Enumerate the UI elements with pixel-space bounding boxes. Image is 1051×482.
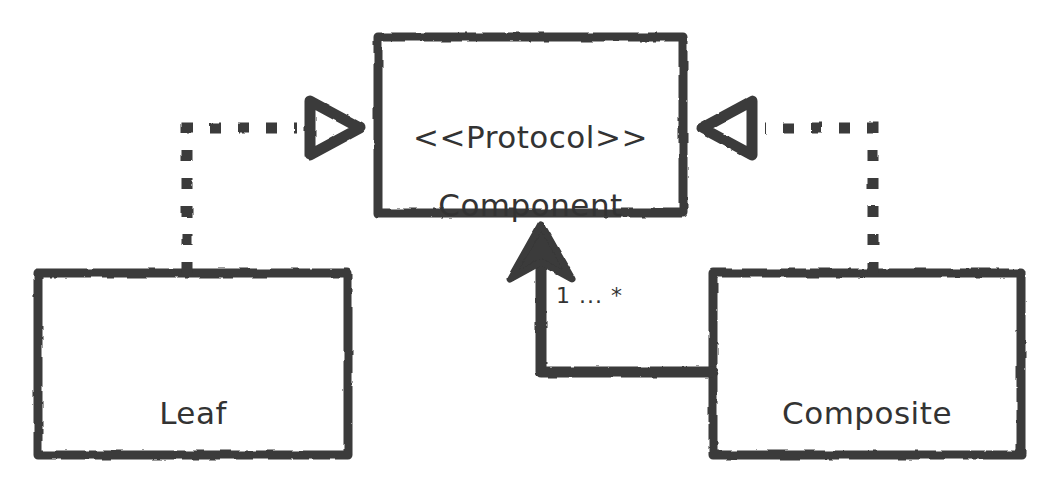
class-box-component[interactable]: [378, 37, 683, 213]
edge-leaf-dashed-line: [187, 128, 297, 273]
edge-composite-realizes-component[interactable]: [702, 101, 873, 273]
edge-multiplicity-label: 1 ... *: [556, 283, 623, 308]
class-box-leaf[interactable]: [38, 273, 348, 455]
edge-leaf-realizes-component[interactable]: [187, 101, 360, 273]
hollow-triangle-arrowhead-right: [702, 101, 752, 155]
hollow-triangle-arrowhead-left: [310, 101, 360, 155]
uml-class-diagram: <<Protocol>> Component Leaf Composite 1 …: [0, 0, 1051, 482]
class-box-composite[interactable]: [713, 273, 1021, 455]
edge-composite-dashed-line: [765, 128, 873, 273]
diagram-canvas: [0, 0, 1051, 482]
